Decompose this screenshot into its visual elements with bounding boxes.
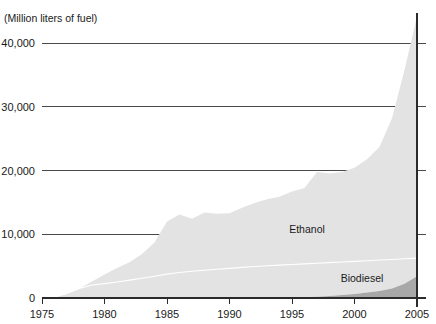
x-tick-label-1975: 1975 bbox=[30, 308, 54, 320]
chart-canvas: (Million liters of fuel) 010,00020,00030… bbox=[0, 0, 436, 324]
x-axis-tick-labels: 1975198019851990199520002005 bbox=[30, 308, 429, 320]
x-tick-label-1995: 1995 bbox=[280, 308, 304, 320]
y-tick-label-0: 0 bbox=[29, 292, 35, 304]
series-label-biodiesel: Biodiesel bbox=[341, 272, 384, 284]
y-tick-label-40000: 40,000 bbox=[1, 37, 35, 49]
x-tick-label-2005: 2005 bbox=[405, 308, 429, 320]
x-axis-ticks bbox=[42, 298, 417, 304]
stacked-area-series bbox=[42, 16, 417, 298]
x-tick-label-1980: 1980 bbox=[92, 308, 116, 320]
y-axis-tick-labels: 010,00020,00030,00040,000 bbox=[1, 37, 35, 304]
x-tick-label-1990: 1990 bbox=[217, 308, 241, 320]
y-tick-label-30000: 30,000 bbox=[1, 101, 35, 113]
y-tick-label-10000: 10,000 bbox=[1, 228, 35, 240]
y-axis-title: (Million liters of fuel) bbox=[4, 12, 97, 24]
y-tick-label-20000: 20,000 bbox=[1, 165, 35, 177]
area-ethanol bbox=[42, 16, 417, 298]
fuel-production-area-chart: (Million liters of fuel) 010,00020,00030… bbox=[0, 0, 436, 324]
x-tick-label-1985: 1985 bbox=[155, 308, 179, 320]
series-label-ethanol: Ethanol bbox=[289, 223, 325, 235]
x-tick-label-2000: 2000 bbox=[342, 308, 366, 320]
